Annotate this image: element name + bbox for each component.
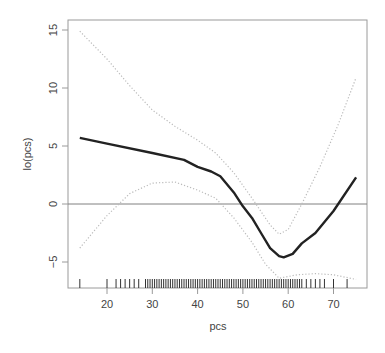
y-tick-label: 0 bbox=[47, 201, 59, 207]
x-tick-label: 70 bbox=[327, 298, 339, 310]
y-axis-label: lo(pcs) bbox=[21, 137, 33, 170]
x-axis-label: pcs bbox=[209, 320, 227, 332]
x-tick-label: 40 bbox=[191, 298, 203, 310]
y-tick-label: 15 bbox=[47, 24, 59, 36]
x-tick-label: 50 bbox=[237, 298, 249, 310]
y-tick-label: 10 bbox=[47, 82, 59, 94]
x-tick-label: 20 bbox=[101, 298, 113, 310]
x-tick-label: 60 bbox=[282, 298, 294, 310]
x-tick-label: 30 bbox=[146, 298, 158, 310]
y-tick-label: −5 bbox=[47, 256, 59, 269]
y-tick-label: 5 bbox=[47, 143, 59, 149]
chart: 203040506070 −5051015 pcs lo(pcs) bbox=[0, 0, 385, 353]
